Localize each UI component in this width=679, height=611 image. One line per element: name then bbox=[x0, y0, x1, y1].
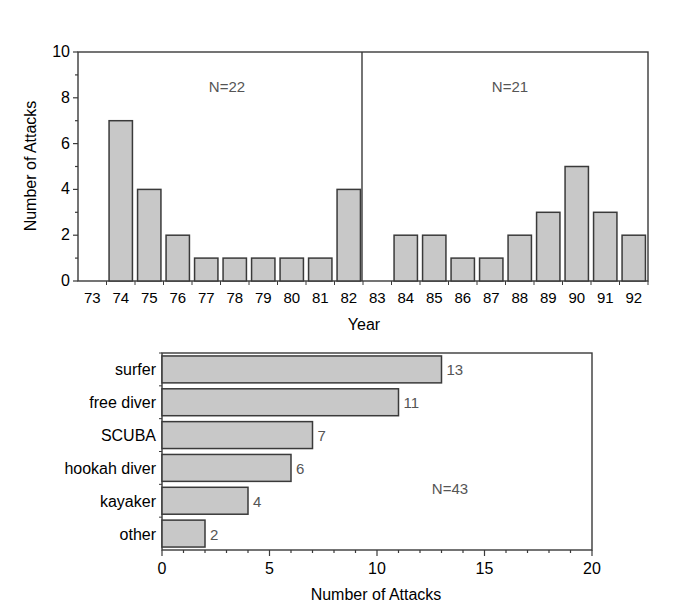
year-tick-label: 73 bbox=[84, 289, 101, 306]
year-tick-label: 92 bbox=[625, 289, 642, 306]
year-bar bbox=[280, 258, 303, 281]
year-bar bbox=[138, 189, 161, 281]
year-bar bbox=[565, 167, 588, 282]
year-bar bbox=[337, 189, 360, 281]
activity-bar bbox=[162, 356, 442, 383]
bar-value-label: 4 bbox=[253, 493, 261, 510]
y-tick-label: 10 bbox=[52, 43, 70, 60]
category-label: kayaker bbox=[100, 493, 157, 510]
y-tick-label: 2 bbox=[61, 226, 70, 243]
shark-attack-charts: 0246810 73747576777879808182838485868788… bbox=[0, 0, 679, 611]
activity-bar bbox=[162, 520, 205, 547]
x-tick-label: 15 bbox=[476, 560, 494, 577]
year-tick-label: 77 bbox=[198, 289, 215, 306]
y-tick-label: 8 bbox=[61, 89, 70, 106]
year-tick-label: 89 bbox=[540, 289, 557, 306]
activity-bar bbox=[162, 422, 313, 449]
year-bar bbox=[394, 235, 417, 281]
bar-value-label: 13 bbox=[447, 361, 464, 378]
year-bar bbox=[309, 258, 332, 281]
year-tick-label: 74 bbox=[112, 289, 129, 306]
top-bars bbox=[109, 121, 645, 281]
year-bar bbox=[480, 258, 503, 281]
year-tick-label: 75 bbox=[141, 289, 158, 306]
bar-value-label: 7 bbox=[318, 427, 326, 444]
year-bar bbox=[166, 235, 189, 281]
year-tick-label: 83 bbox=[369, 289, 386, 306]
year-tick-label: 79 bbox=[255, 289, 272, 306]
year-bar bbox=[109, 121, 132, 281]
category-label: surfer bbox=[115, 361, 157, 378]
activity-bar bbox=[162, 389, 399, 416]
yearly-attacks-chart: 0246810 73747576777879808182838485868788… bbox=[22, 43, 648, 333]
top-y-axis-label: Number of Attacks bbox=[22, 101, 39, 232]
bottom-x-axis: 05101520 bbox=[158, 550, 601, 577]
bar-value-label: 2 bbox=[210, 526, 218, 543]
year-bar bbox=[195, 258, 218, 281]
y-tick-label: 0 bbox=[61, 272, 70, 289]
year-bar bbox=[252, 258, 275, 281]
bottom-x-axis-label: Number of Attacks bbox=[311, 586, 442, 603]
bar-value-label: 6 bbox=[296, 460, 304, 477]
year-bar bbox=[537, 212, 560, 281]
top-x-axis-label: Year bbox=[348, 316, 381, 333]
x-tick-label: 0 bbox=[158, 560, 167, 577]
victim-activity-chart: 13surfer11free diver7SCUBA6hookah diver4… bbox=[64, 353, 601, 603]
y-tick-label: 4 bbox=[61, 180, 70, 197]
bottom-bars: 13surfer11free diver7SCUBA6hookah diver4… bbox=[64, 353, 463, 547]
year-tick-label: 82 bbox=[340, 289, 357, 306]
n-total-annotation: N=43 bbox=[432, 480, 468, 497]
year-bar bbox=[508, 235, 531, 281]
activity-bar bbox=[162, 454, 291, 481]
year-bar bbox=[223, 258, 246, 281]
year-tick-label: 87 bbox=[483, 289, 500, 306]
year-tick-label: 86 bbox=[454, 289, 471, 306]
year-tick-label: 84 bbox=[397, 289, 414, 306]
x-tick-label: 20 bbox=[583, 560, 601, 577]
n-right-annotation: N=21 bbox=[492, 78, 528, 95]
year-bar bbox=[451, 258, 474, 281]
x-tick-label: 10 bbox=[368, 560, 386, 577]
year-tick-label: 85 bbox=[426, 289, 443, 306]
year-tick-label: 76 bbox=[169, 289, 186, 306]
category-label: hookah diver bbox=[64, 460, 156, 477]
y-tick-label: 6 bbox=[61, 135, 70, 152]
year-tick-label: 91 bbox=[597, 289, 614, 306]
top-y-axis: 0246810 bbox=[52, 43, 78, 289]
activity-bar bbox=[162, 487, 248, 514]
x-tick-label: 5 bbox=[265, 560, 274, 577]
bar-value-label: 11 bbox=[404, 394, 420, 411]
year-bar bbox=[594, 212, 617, 281]
year-tick-label: 88 bbox=[511, 289, 528, 306]
top-x-axis: 7374757677787980818283848586878889909192 bbox=[84, 281, 648, 306]
category-label: free diver bbox=[89, 394, 156, 411]
year-tick-label: 81 bbox=[312, 289, 329, 306]
year-bar bbox=[423, 235, 446, 281]
category-label: SCUBA bbox=[101, 427, 156, 444]
category-label: other bbox=[120, 526, 157, 543]
year-bar bbox=[622, 235, 645, 281]
n-left-annotation: N=22 bbox=[209, 78, 245, 95]
year-tick-label: 80 bbox=[283, 289, 300, 306]
year-tick-label: 90 bbox=[568, 289, 585, 306]
top-plot-frame bbox=[78, 52, 648, 281]
year-tick-label: 78 bbox=[226, 289, 243, 306]
